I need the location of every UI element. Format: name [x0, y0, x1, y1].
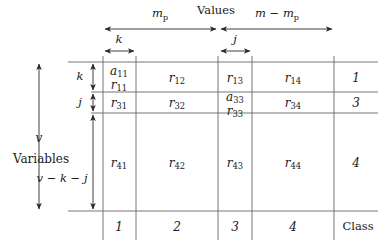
cell-r42: r42: [169, 157, 185, 169]
diagram-lines: [0, 0, 385, 244]
row-label-3: 3: [352, 97, 360, 109]
cell-r13: r13: [227, 72, 243, 84]
class-label: Class: [342, 221, 373, 233]
row-label-1: 1: [352, 72, 360, 84]
cell-r41: r41: [111, 157, 127, 169]
column-footer-4: 4: [289, 221, 297, 233]
row-bracket-label-j: j: [78, 97, 82, 109]
cell-r44: r44: [285, 157, 301, 169]
bracket-label-m-minus-mp: m − mp: [255, 8, 299, 20]
row-bracket-label-v-k-j: v − k − j: [37, 173, 88, 185]
cell-r33: r33: [227, 105, 243, 117]
row-bracket-label-k: k: [77, 71, 84, 83]
cell-r11: r11: [111, 79, 127, 91]
column-footer-1: 1: [115, 221, 123, 233]
row-bracket-label-v: v: [36, 132, 43, 144]
cell-r34: r34: [285, 97, 301, 109]
cell-a33: a33: [226, 91, 244, 103]
matrix-block-diagram: mp Values m − mp k j v Variables k j v −…: [0, 0, 385, 244]
row-label-4: 4: [352, 157, 360, 169]
cell-r12: r12: [169, 72, 185, 84]
column-footer-3: 3: [231, 221, 239, 233]
bracket-label-k-col: k: [116, 34, 123, 46]
variables-title: Variables: [13, 153, 69, 165]
cell-r32: r32: [169, 97, 185, 109]
bracket-label-j-col: j: [233, 34, 237, 46]
values-title: Values: [197, 5, 235, 17]
cell-r43: r43: [227, 157, 243, 169]
cell-r14: r14: [285, 72, 301, 84]
column-footer-2: 2: [173, 221, 181, 233]
cell-r31: r31: [111, 97, 127, 109]
cell-a11: a11: [110, 65, 128, 77]
bracket-label-mp: mp: [152, 8, 168, 20]
